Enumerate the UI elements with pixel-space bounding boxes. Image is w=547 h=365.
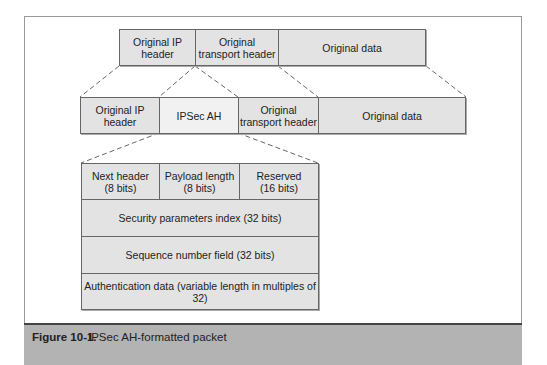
next-header-field: Next header(8 bits) (82, 164, 160, 200)
label: Original data (362, 110, 422, 122)
field-name: Next header (92, 170, 149, 182)
ah-pkt-ipsec-ah-box: IPSec AH (159, 97, 239, 134)
figure-title: IPSec AH-formatted packet (88, 331, 227, 343)
label: IPSec AH (177, 110, 222, 122)
ah-header-detail: Next header(8 bits) Payload length(8 bit… (81, 163, 319, 310)
figure-caption: Figure 10-1. IPSec AH-formatted packet (24, 323, 522, 365)
orig-data-box: Original data (278, 29, 426, 66)
label: Original transport header (240, 104, 318, 128)
orig-ip-header-box: Original IP header (119, 29, 196, 66)
figure-number: Figure 10-1. (32, 331, 97, 343)
field-name: Reserved (257, 170, 302, 182)
authentication-data-field: Authentication data (variable length in … (82, 274, 318, 309)
ah-pkt-transport-header-box: Original transport header (238, 97, 319, 134)
reserved-field: Reserved(16 bits) (240, 164, 318, 200)
field-name: Sequence number field (32 bits) (126, 249, 275, 261)
payload-length-field: Payload length(8 bits) (160, 164, 240, 200)
spi-field: Security parameters index (32 bits) (82, 200, 318, 237)
label: Original data (322, 42, 382, 54)
ah-pkt-ip-header-box: Original IP header (80, 97, 160, 134)
field-bits: (8 bits) (92, 182, 149, 194)
label: Original transport header (198, 36, 276, 60)
ah-pkt-data-box: Original data (318, 97, 466, 134)
field-name: Payload length (165, 170, 234, 182)
label: Original IP header (90, 104, 150, 128)
orig-transport-header-box: Original transport header (195, 29, 279, 66)
field-name: Security parameters index (32 bits) (119, 212, 282, 224)
label: Original IP header (128, 36, 188, 60)
field-name: Authentication data (variable length in … (82, 280, 318, 304)
field-bits: (8 bits) (165, 182, 234, 194)
sequence-number-field: Sequence number field (32 bits) (82, 237, 318, 274)
field-bits: (16 bits) (257, 182, 302, 194)
